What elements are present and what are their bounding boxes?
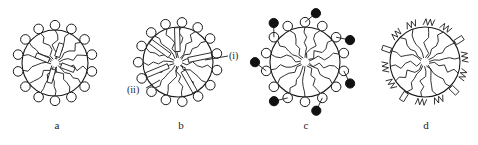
filled-head-group-icon [269,97,278,106]
zigzag-chain-icon [415,98,427,105]
filled-head-group-icon [311,9,320,18]
filled-head-group-icon [250,58,259,67]
head-group-icon [339,48,349,58]
head-group-icon [34,92,44,102]
hydrocarbon-tail [308,65,332,84]
head-group-icon [147,87,157,97]
rod-molecule [188,53,212,63]
head-group-icon [318,93,328,103]
head-group-icon [87,50,97,60]
hydrocarbon-tail [290,66,303,94]
hydrocarbon-tail [59,55,87,62]
head-group-icon [331,82,341,92]
annotation-ii-label: (ii) [127,85,139,95]
hydrocarbon-tail [309,63,339,70]
head-group-icon [13,67,23,77]
hydrocarbon-tail [307,31,321,59]
head-group-icon [13,50,23,60]
panel-b-micelle [133,18,228,107]
panel-c-micelle [250,9,354,116]
filled-head-group-icon [269,18,278,27]
hydrocarbon-tail [412,29,424,58]
head-group-icon [205,34,215,44]
micelle-boundary [270,27,340,97]
rod-molecule [399,91,408,101]
head-group-icon [178,97,188,107]
head-group-icon [283,93,293,103]
filled-head-group-icon [345,36,354,45]
hydrocarbon-tail [407,66,423,92]
panel-label-d: d [423,120,429,131]
panel-a-micelle [13,20,96,105]
head-group-icon [34,24,44,34]
zigzag-chain-icon [382,62,390,72]
filled-head-group-icon [312,106,321,115]
hydrocarbon-tail [427,32,443,58]
panel-d-micelle [382,19,469,106]
hydrocarbon-tail [429,62,458,73]
head-group-icon [177,18,187,28]
head-group-icon [283,21,293,31]
head-group-icon [300,97,310,107]
zigzag-chain-icon [423,19,435,26]
micelle-boundary [22,30,88,96]
head-group-icon [87,67,97,77]
zigzag-chain-icon [461,52,469,62]
head-group-icon [80,35,90,45]
hydrocarbon-tail [424,27,429,58]
filled-head-group-icon [346,79,355,88]
head-group-icon [67,92,77,102]
zigzag-chain-icon [435,95,443,105]
head-group-icon [80,82,90,92]
head-group-icon [137,74,147,84]
zigzag-chain-icon [459,69,467,82]
rod-molecule [175,28,181,52]
hydrocarbon-tail [390,61,421,68]
rod-molecule [382,45,392,53]
hydrocarbon-tail [23,62,51,71]
head-group-icon [133,57,143,67]
hydrocarbon-tail [392,51,421,61]
head-group-icon [67,24,77,34]
panel-label-c: c [304,120,309,131]
head-group-icon [50,96,60,106]
rod-molecule [60,63,75,73]
hydrocarbon-tail [429,43,455,60]
panel-label-b: b [178,120,184,131]
head-group-icon [21,82,31,92]
rod-molecule [55,43,64,58]
hydrocarbon-tail [308,40,332,59]
head-group-icon [137,41,147,51]
hydrocarbon-tail [303,66,305,97]
hydrocarbon-tail [143,61,174,65]
annotation-i-label: (i) [229,51,238,61]
head-group-icon [212,49,222,59]
head-group-icon [206,80,216,90]
micelle-diagram [0,0,478,145]
head-group-icon [318,21,328,31]
head-group-icon [21,35,31,45]
head-group-icon [50,20,60,30]
hydrocarbon-tail [182,62,212,70]
head-group-icon [212,65,222,75]
head-group-icon [161,95,171,105]
head-group-icon [269,82,279,92]
hydrocarbon-tail [271,54,301,62]
head-group-icon [146,28,156,38]
rod-molecule [145,64,169,78]
rod-molecule [449,85,459,95]
head-group-icon [339,66,349,76]
panel-label-a: a [55,120,60,131]
head-group-icon [261,48,271,58]
rod-molecule [454,36,464,45]
head-group-icon [161,19,171,29]
hydrocarbon-tail [176,66,183,97]
head-group-icon [193,23,203,33]
zigzag-chain-icon [407,20,415,30]
hydrocarbon-tail [429,58,460,62]
head-group-icon [193,92,203,102]
